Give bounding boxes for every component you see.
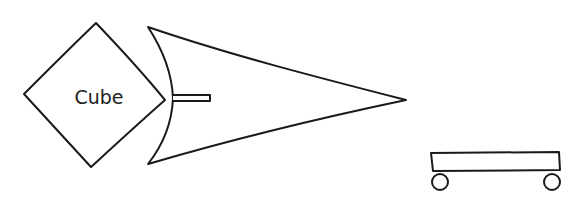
diagram-canvas: Cube [0, 0, 587, 212]
arrowhead-node [148, 27, 406, 164]
cart-body [431, 152, 560, 171]
diagram-svg: Cube [0, 0, 587, 212]
arrowhead-stub [173, 95, 210, 101]
cart-wheel-left [432, 174, 448, 190]
cart-node [431, 152, 560, 190]
cube-node: Cube [24, 23, 165, 167]
cube-label: Cube [74, 86, 123, 108]
cart-wheel-right [544, 174, 560, 190]
